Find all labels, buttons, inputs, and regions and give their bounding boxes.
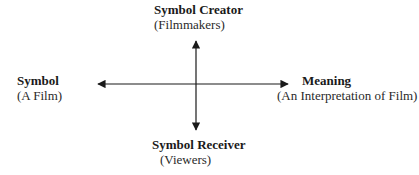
node-subtitle: (An Interpretation of Film) (277, 88, 417, 103)
node-title: Meaning (277, 73, 417, 88)
node-symbol: Symbol (A Film) (17, 73, 62, 103)
node-title: Symbol (17, 73, 62, 88)
node-subtitle: (Filmmakers) (154, 17, 243, 32)
node-subtitle: (A Film) (17, 88, 62, 103)
node-symbol-receiver: Symbol Receiver (Viewers) (152, 137, 246, 167)
node-subtitle: (Viewers) (152, 152, 246, 167)
node-symbol-creator: Symbol Creator (Filmmakers) (154, 2, 243, 32)
node-meaning: Meaning (An Interpretation of Film) (277, 73, 417, 103)
node-title: Symbol Receiver (152, 137, 246, 152)
node-title: Symbol Creator (154, 2, 243, 17)
